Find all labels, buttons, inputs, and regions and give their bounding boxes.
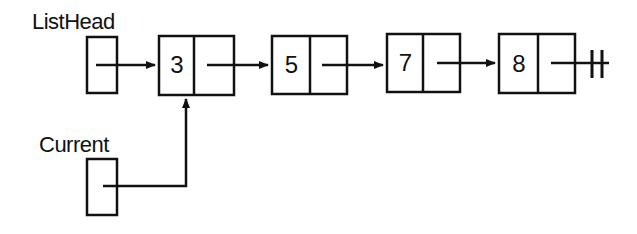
node-7-value: 7 [388,49,423,77]
node-3-value: 3 [160,51,194,79]
current-arrow [103,99,186,186]
diagram-lines [0,0,637,234]
listhead-label: ListHead [32,9,115,35]
node-8-value: 8 [500,50,538,78]
node-5-value: 5 [273,51,310,79]
current-label: Current [39,132,109,158]
linked-list-diagram: ListHead Current 3 5 7 8 [0,0,637,234]
null-terminator-icon [551,50,609,78]
